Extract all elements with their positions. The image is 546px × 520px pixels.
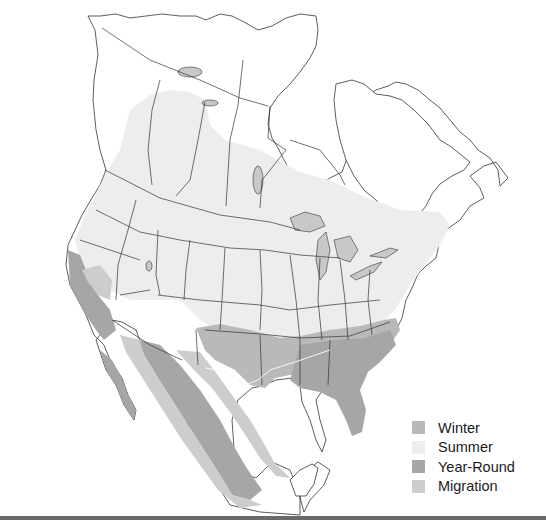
migration-swatch-icon — [412, 480, 425, 493]
legend-item-migration: Migration — [412, 477, 515, 497]
legend-label: Migration — [438, 478, 498, 494]
summer-swatch-icon — [412, 441, 425, 454]
winter-swatch-icon — [412, 421, 425, 434]
legend-label: Year-Round — [438, 459, 515, 475]
legend-item-year-round: Year-Round — [412, 457, 515, 477]
legend-item-winter: Winter — [412, 418, 515, 438]
legend: Winter Summer Year-Round Migration — [412, 418, 515, 496]
year-round-swatch-icon — [412, 460, 425, 473]
legend-item-summer: Summer — [412, 438, 515, 458]
legend-label: Summer — [438, 439, 493, 455]
legend-label: Winter — [438, 420, 480, 436]
